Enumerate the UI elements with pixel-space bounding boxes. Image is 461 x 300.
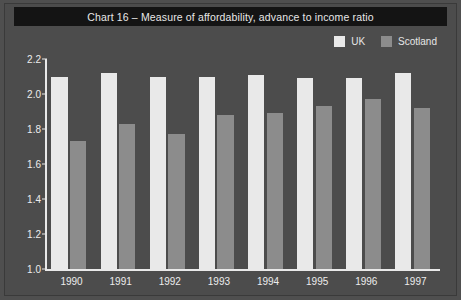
bar-uk-1997 [395, 73, 411, 269]
bar-uk-1994 [248, 75, 264, 269]
bar-uk-1992 [150, 77, 166, 270]
x-axis-tick-label: 1995 [306, 276, 328, 287]
bar-uk-1991 [101, 73, 117, 269]
bar-scotland-1995 [316, 106, 332, 269]
title-banner: Chart 16 – Measure of affordability, adv… [14, 7, 447, 26]
page-title: Chart 16 – Measure of affordability, adv… [87, 11, 373, 23]
y-axis-tick-label: 1.8 [27, 123, 41, 134]
x-axis-tick-label: 1991 [110, 276, 132, 287]
plot-inner: 1.01.21.41.61.82.02.2 199019911992199319… [47, 59, 440, 269]
bar-uk-1990 [51, 77, 67, 270]
bar-scotland-1990 [70, 141, 86, 269]
bar-scotland-1997 [414, 108, 430, 269]
bar-group-1991: 1991 [96, 59, 145, 269]
y-axis-tick-label: 2.0 [27, 88, 41, 99]
bar-uk-1993 [199, 77, 215, 270]
bar-group-1990: 1990 [47, 59, 96, 269]
x-axis-tick-label: 1994 [257, 276, 279, 287]
legend-swatch-icon [381, 36, 392, 47]
bar-group-1997: 1997 [391, 59, 440, 269]
y-axis-tick-label: 1.2 [27, 229, 41, 240]
y-axis-tick-label: 2.2 [27, 54, 41, 65]
bar-uk-1995 [297, 78, 313, 269]
x-axis-tick-label: 1992 [159, 276, 181, 287]
bar-group-1995: 1995 [293, 59, 342, 269]
y-axis-tick-label: 1.6 [27, 159, 41, 170]
legend-label: Scotland [398, 36, 437, 47]
bar-group-1996: 1996 [342, 59, 391, 269]
legend-item-uk: UK [334, 36, 365, 47]
bar-scotland-1993 [217, 115, 233, 269]
y-axis-tick-label: 1.0 [27, 264, 41, 275]
chart-figure: Chart 16 – Measure of affordability, adv… [0, 0, 461, 300]
bar-scotland-1992 [168, 134, 184, 269]
bar-scotland-1991 [119, 124, 135, 269]
legend-swatch-icon [334, 36, 345, 47]
bar-groups: 19901991199219931994199519961997 [47, 59, 440, 269]
x-axis-tick-label: 1996 [355, 276, 377, 287]
bar-group-1993: 1993 [194, 59, 243, 269]
x-axis-tick-label: 1990 [60, 276, 82, 287]
bar-scotland-1996 [365, 99, 381, 269]
bar-uk-1996 [346, 78, 362, 269]
bar-scotland-1994 [267, 113, 283, 269]
plot-area: 1.01.21.41.61.82.02.2 199019911992199319… [45, 59, 440, 271]
y-axis-tick-label: 1.4 [27, 193, 41, 204]
legend-label: UK [351, 36, 365, 47]
x-axis-tick-label: 1997 [404, 276, 426, 287]
bar-group-1992: 1992 [145, 59, 194, 269]
legend-item-scotland: Scotland [381, 36, 437, 47]
bar-group-1994: 1994 [244, 59, 293, 269]
chart-legend: UKScotland [334, 33, 437, 49]
x-axis-tick-label: 1993 [208, 276, 230, 287]
